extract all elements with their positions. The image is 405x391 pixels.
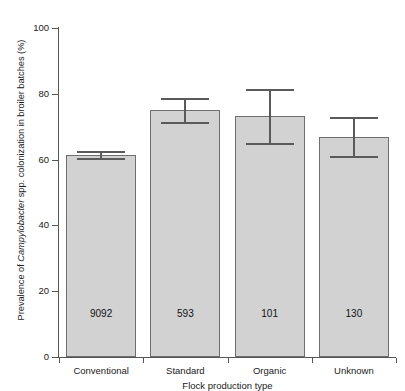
y-tick-mark — [52, 28, 58, 29]
error-bar-stem — [269, 89, 271, 143]
x-tick-mark — [59, 358, 60, 363]
bar-sample-size-label: 130 — [320, 308, 388, 319]
bar-sample-size-label: 9092 — [67, 308, 135, 319]
bar-sample-size-label: 101 — [236, 308, 304, 319]
x-tick-mark — [396, 358, 397, 363]
x-tick-mark — [228, 358, 229, 363]
bar: 130 — [319, 137, 389, 357]
y-tick-label: 0 — [9, 352, 49, 362]
y-tick-label: 80 — [9, 89, 49, 99]
bar: 593 — [150, 110, 220, 357]
y-tick-mark — [52, 357, 58, 358]
y-tick-label: 60 — [9, 155, 49, 165]
y-tick-mark — [52, 291, 58, 292]
x-tick-label: Standard — [143, 365, 227, 377]
y-tick-label: 20 — [9, 286, 49, 296]
y-tick-label: 100 — [9, 23, 49, 33]
x-axis-title: Flock production type — [59, 380, 396, 391]
x-tick-label: Conventional — [59, 365, 143, 377]
y-tick-mark — [52, 225, 58, 226]
error-bar-cap-lower — [330, 156, 378, 158]
y-axis-title: Prevalence of Campylobacter spp. coloniz… — [14, 10, 28, 350]
bar-sample-size-label: 593 — [151, 308, 219, 319]
chart-figure: Prevalence of Campylobacter spp. coloniz… — [0, 0, 405, 391]
x-tick-mark — [143, 358, 144, 363]
x-tick-label: Organic — [228, 365, 312, 377]
error-bar-cap-upper — [77, 151, 125, 153]
y-tick-mark — [52, 94, 58, 95]
y-tick-label: 40 — [9, 220, 49, 230]
error-bar-cap-upper — [330, 117, 378, 119]
x-tick-mark — [312, 358, 313, 363]
error-bar-cap-upper — [161, 98, 209, 100]
error-bar-stem — [353, 117, 355, 156]
y-tick-mark — [52, 160, 58, 161]
plot-area: 9092593101130 — [59, 28, 396, 357]
error-bar-cap-lower — [77, 158, 125, 160]
error-bar-stem — [184, 98, 186, 122]
error-bar-cap-lower — [246, 143, 294, 145]
x-tick-label: Unknown — [312, 365, 396, 377]
y-axis-title-suffix: spp. colonization in broiler batches (%) — [16, 40, 26, 200]
bar: 9092 — [66, 155, 136, 357]
error-bar-cap-lower — [161, 122, 209, 124]
y-axis-title-species: Campylobacter — [16, 200, 26, 262]
error-bar-cap-upper — [246, 89, 294, 91]
bar: 101 — [235, 116, 305, 357]
